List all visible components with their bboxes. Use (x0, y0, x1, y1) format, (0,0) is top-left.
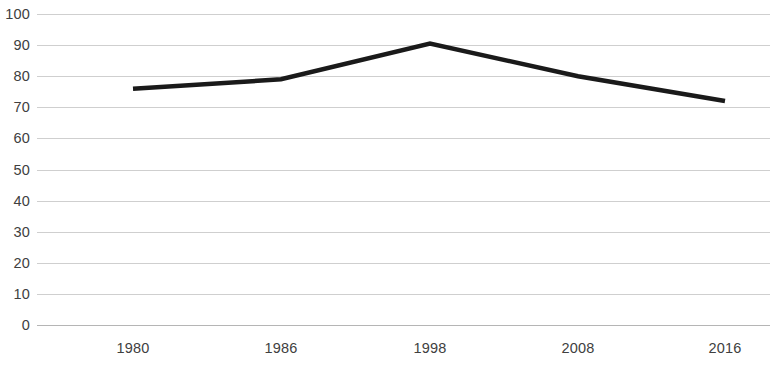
y-axis-tick-label: 30 (0, 225, 30, 240)
gridline (37, 263, 770, 264)
gridline (37, 45, 770, 46)
gridline (37, 138, 770, 139)
y-axis-tick-label: 70 (0, 100, 30, 115)
gridline (37, 170, 770, 171)
gridline (37, 201, 770, 202)
y-axis-tick-label: 40 (0, 194, 30, 209)
gridline (37, 14, 770, 15)
x-axis-tick-label: 1980 (88, 341, 178, 356)
y-axis-tick-label: 100 (0, 7, 30, 22)
gridline (37, 232, 770, 233)
gridline (37, 294, 770, 295)
y-axis-tick-label: 0 (0, 318, 30, 333)
x-axis-tick-label: 2016 (680, 341, 770, 356)
x-axis-tick-label: 1986 (236, 341, 326, 356)
gridline (37, 76, 770, 77)
axis-baseline (37, 325, 770, 326)
x-axis-tick-label: 2008 (533, 341, 623, 356)
y-axis-tick-label: 80 (0, 69, 30, 84)
y-axis-tick-label: 50 (0, 163, 30, 178)
line-chart: 1009080706050403020100 19801986199820082… (0, 0, 774, 365)
plot-area (37, 14, 770, 325)
y-axis-tick-label: 90 (0, 38, 30, 53)
gridline (37, 107, 770, 108)
y-axis-tick-label: 10 (0, 287, 30, 302)
x-axis-tick-label: 1998 (385, 341, 475, 356)
y-axis-tick-label: 20 (0, 256, 30, 271)
y-axis-tick-label: 60 (0, 131, 30, 146)
